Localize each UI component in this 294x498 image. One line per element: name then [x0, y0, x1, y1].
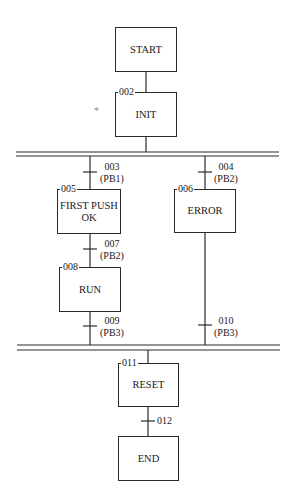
step-first-push-line1: FIRST PUSH — [60, 200, 118, 212]
step-init: INIT — [115, 92, 177, 137]
transition-012: 012 — [157, 415, 172, 427]
step-end: END — [118, 436, 179, 481]
step-error: ERROR — [174, 189, 236, 233]
step-first-push-number: 005 — [60, 183, 77, 194]
step-error-number: 006 — [177, 183, 194, 194]
step-init-label: INIT — [136, 109, 157, 121]
transition-007-number: 007 — [100, 238, 124, 250]
transition-004-condition: (PB2) — [214, 173, 238, 185]
step-reset-label: RESET — [132, 379, 164, 391]
step-run-number: 008 — [62, 261, 79, 272]
transition-009-number: 009 — [100, 315, 124, 327]
step-error-label: ERROR — [187, 205, 222, 217]
transition-003-condition: (PB1) — [100, 173, 124, 185]
step-reset: RESET — [118, 363, 179, 407]
diagram-connectors — [0, 0, 294, 498]
step-first-push: FIRST PUSH OK — [57, 189, 121, 234]
step-reset-number: 011 — [121, 357, 138, 368]
step-end-label: END — [138, 453, 160, 465]
transition-004: 004 (PB2) — [214, 161, 238, 185]
step-init-number: 002 — [118, 86, 135, 97]
step-first-push-line2: OK — [81, 212, 96, 224]
initial-step-marker: * — [94, 105, 99, 116]
transition-004-number: 004 — [214, 161, 238, 173]
transition-007: 007 (PB2) — [100, 238, 124, 262]
transition-009: 009 (PB3) — [100, 315, 124, 339]
transition-003-number: 003 — [100, 161, 124, 173]
transition-010-condition: (PB3) — [214, 327, 238, 339]
transition-003: 003 (PB1) — [100, 161, 124, 185]
step-run: RUN — [59, 267, 121, 312]
transition-007-condition: (PB2) — [100, 250, 124, 262]
transition-012-number: 012 — [157, 415, 172, 427]
transition-010: 010 (PB3) — [214, 315, 238, 339]
transition-010-number: 010 — [214, 315, 238, 327]
transition-009-condition: (PB3) — [100, 327, 124, 339]
step-start-label: START — [130, 44, 162, 56]
step-run-label: RUN — [79, 284, 101, 296]
step-start: START — [115, 27, 177, 72]
